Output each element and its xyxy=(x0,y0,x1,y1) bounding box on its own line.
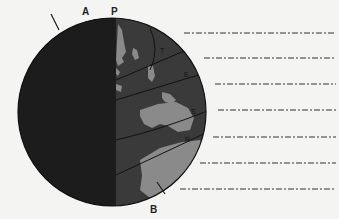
label-s: S xyxy=(191,108,196,115)
label-t: T xyxy=(160,47,165,54)
globe-diagram: A P B T E S R xyxy=(0,0,339,219)
label-a: A xyxy=(82,6,89,17)
axis-pointer-top xyxy=(51,14,59,30)
night-side xyxy=(0,0,116,219)
label-e: E xyxy=(184,71,189,78)
label-r: R xyxy=(185,136,190,143)
label-b: B xyxy=(150,204,157,215)
label-p: P xyxy=(111,6,118,17)
globe xyxy=(0,0,215,219)
